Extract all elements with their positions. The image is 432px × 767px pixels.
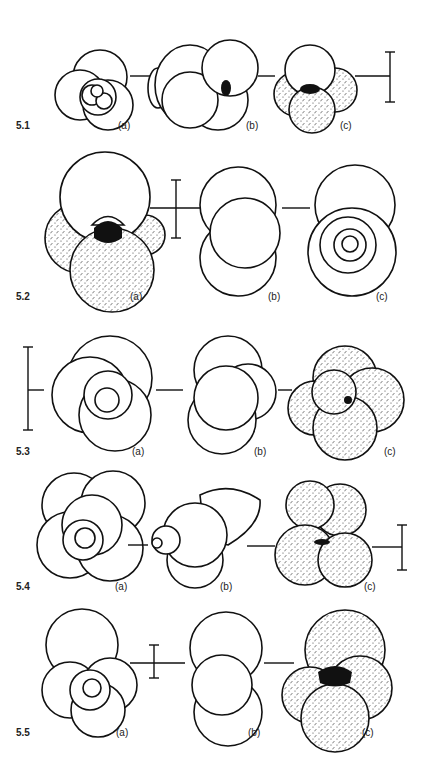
view-label-a: (a) <box>132 446 144 457</box>
scale-bar <box>23 347 44 430</box>
view-label-c: (c) <box>364 581 376 592</box>
specimen-5-3-a <box>52 336 152 451</box>
view-label-a: (a) <box>116 727 128 738</box>
view-label-c: (c) <box>376 291 388 302</box>
scale-bar <box>149 645 159 678</box>
specimen-5-5-a <box>42 609 137 737</box>
scale-bar <box>171 180 181 238</box>
row-label-5-3: 5.3 <box>16 446 30 457</box>
view-label-b: (b) <box>220 581 232 592</box>
specimen-5-4-a <box>37 471 145 581</box>
view-label-a: (a) <box>118 120 130 131</box>
view-label-c: (c) <box>384 446 396 457</box>
specimen-5-4-c <box>275 481 372 587</box>
row-label-5-5: 5.5 <box>16 727 30 738</box>
view-label-c: (c) <box>340 120 352 131</box>
scale-bar <box>385 52 395 102</box>
foraminifera-plate: 5.1 (a) (b) (c) 5.2 (a) (b) (c) 5.3 (a) … <box>0 0 432 767</box>
view-label-b: (b) <box>254 446 266 457</box>
specimen-5-3-b <box>188 336 276 454</box>
view-label-a: (a) <box>130 291 142 302</box>
view-label-b: (b) <box>246 120 258 131</box>
view-label-c: (c) <box>362 727 374 738</box>
plate-drawings <box>0 0 432 767</box>
view-label-b: (b) <box>248 727 260 738</box>
specimen-5-1-a <box>55 50 133 130</box>
row-label-5-1: 5.1 <box>16 120 30 131</box>
specimen-5-2-a <box>45 152 165 312</box>
specimen-5-5-c <box>282 610 392 752</box>
specimen-5-3-c <box>288 346 404 460</box>
specimen-5-1-b <box>148 40 258 130</box>
specimen-5-2-b <box>200 167 280 296</box>
row-label-5-2: 5.2 <box>16 291 30 302</box>
specimen-5-4-b <box>152 489 260 588</box>
row-label-5-4: 5.4 <box>16 581 30 592</box>
view-label-b: (b) <box>268 291 280 302</box>
view-label-a: (a) <box>115 581 127 592</box>
specimen-5-2-c <box>308 165 396 296</box>
specimen-5-5-b <box>190 612 262 746</box>
